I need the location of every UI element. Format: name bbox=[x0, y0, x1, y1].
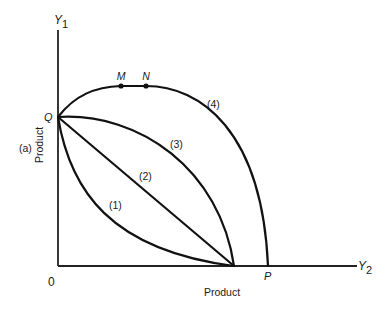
point-m-label: M bbox=[117, 70, 126, 82]
point-p-label: P bbox=[264, 270, 272, 282]
panel-label: (a) bbox=[19, 142, 32, 154]
point-m bbox=[118, 83, 123, 88]
origin-label: 0 bbox=[48, 275, 55, 289]
curve-4 bbox=[58, 86, 268, 266]
curve-3-label: (3) bbox=[170, 138, 183, 150]
curve-1-label: (1) bbox=[109, 199, 122, 211]
x-axis-label: Product bbox=[204, 286, 240, 298]
curve-4-label: (4) bbox=[207, 98, 220, 110]
curve-2-label: (2) bbox=[139, 170, 152, 182]
curve-2 bbox=[58, 117, 234, 266]
point-n-label: N bbox=[142, 70, 150, 82]
point-q-label: Q bbox=[44, 111, 53, 123]
y-axis-label: Product bbox=[33, 127, 45, 163]
point-n bbox=[143, 83, 148, 88]
x-axis-name: Y2 bbox=[358, 259, 372, 276]
production-possibility-diagram: Y1 Y2 0 (a) Product Product M N Q P (1) … bbox=[0, 0, 391, 312]
y-axis-name: Y1 bbox=[54, 13, 68, 30]
